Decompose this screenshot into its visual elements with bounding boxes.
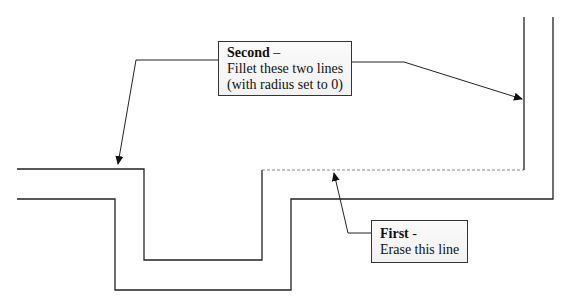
callout-second-line-2: (with radius set to 0) [227, 77, 351, 93]
callout-second-dash: – [270, 45, 281, 60]
second-left-arrow [118, 60, 218, 164]
callout-first-line-1: Erase this line [380, 242, 467, 258]
callout-first: First - Erase this line [371, 220, 468, 263]
callout-second: Second – Fillet these two lines (with ra… [218, 41, 352, 96]
inner-profile-line[interactable] [17, 169, 262, 260]
first-arrow [334, 173, 371, 233]
second-right-arrow [352, 62, 522, 99]
callout-second-line-1: Fillet these two lines [227, 61, 351, 77]
callout-first-dash: - [409, 226, 417, 241]
callout-second-heading: Second [227, 45, 270, 60]
callout-first-heading: First [380, 226, 409, 241]
